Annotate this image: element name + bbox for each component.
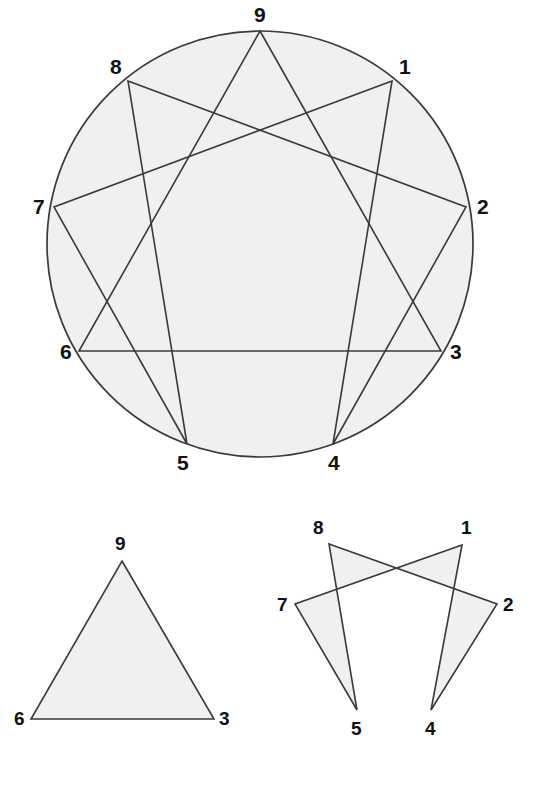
hexad-label-8: 8 [313,518,324,537]
triangle-fill [31,561,214,719]
triangle-label-6: 6 [14,709,25,728]
diagram-canvas [0,0,535,785]
enneagram-label-9: 9 [254,4,266,25]
enneagram-label-1: 1 [399,56,411,77]
triangle-figure [31,561,214,719]
triangle-label-3: 3 [219,709,230,728]
enneagram-figure [47,31,473,457]
enneagram-label-3: 3 [450,341,462,362]
enneagram-label-4: 4 [328,452,340,473]
hexad-figure [295,544,497,710]
enneagram-label-7: 7 [33,196,45,217]
hexad-label-4: 4 [425,719,436,738]
hexad-label-2: 2 [503,595,514,614]
enneagram-figure-page: 9 1 2 3 4 5 6 7 8 9 3 6 8 1 7 2 5 4 [0,0,535,785]
hexad-label-1: 1 [461,518,472,537]
enneagram-label-6: 6 [60,341,72,362]
hexad-label-5: 5 [351,719,362,738]
enneagram-label-2: 2 [477,196,489,217]
enneagram-label-8: 8 [110,56,122,77]
triangle-label-9: 9 [115,534,126,553]
hexad-label-7: 7 [277,595,288,614]
enneagram-label-5: 5 [177,452,189,473]
